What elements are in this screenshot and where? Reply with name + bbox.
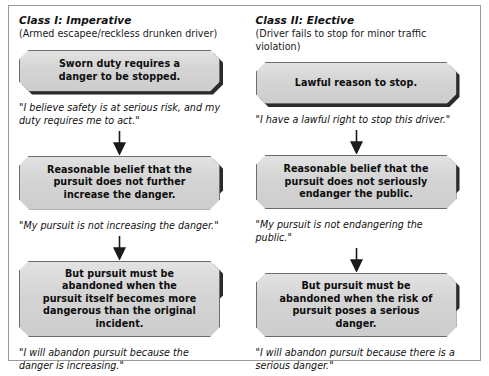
down-arrow-icon-ii-1	[256, 129, 457, 155]
step-box-ii-2: Reasonable belief that the pursuit does …	[256, 155, 457, 209]
step-box-text: Lawful reason to stop.	[295, 77, 417, 90]
step-quote-ii-3: "I will abandon pursuit because there is…	[256, 346, 460, 372]
step-quote-ii-2: "My pursuit is not endangering the publi…	[256, 218, 460, 244]
step-box-ii-3: But pursuit must be abandoned when the r…	[256, 273, 457, 337]
step-box-text: But pursuit must be abandoned when the p…	[42, 268, 197, 331]
down-arrow-icon-i-1	[19, 130, 220, 156]
step-quote-i-2: "My pursuit is not increasing the danger…	[19, 219, 223, 232]
step-box-text: Reasonable belief that the pursuit does …	[42, 164, 197, 202]
step-box-i-3: But pursuit must be abandoned when the p…	[19, 261, 220, 338]
class-title-ii: Class II: Elective	[256, 14, 476, 27]
step-box-text: But pursuit must be abandoned when the r…	[279, 280, 434, 330]
column-class-i: Class I: Imperative (Armed escapee/reckl…	[8, 5, 245, 361]
class-subtitle-ii: (Driver fails to stop for minor traffic …	[256, 28, 446, 53]
diagram-columns: Class I: Imperative (Armed escapee/reckl…	[8, 5, 481, 361]
diagram-page: Class I: Imperative (Armed escapee/reckl…	[0, 0, 489, 376]
step-box-text: Reasonable belief that the pursuit does …	[279, 163, 434, 201]
down-arrow-icon-ii-2	[256, 247, 457, 273]
class-title-i: Class I: Imperative	[19, 14, 239, 27]
step-box-i-1: Sworn duty requires a danger to be stopp…	[19, 50, 220, 92]
class-subtitle-i: (Armed escapee/reckless drunken driver)	[19, 28, 234, 41]
step-quote-ii-1: "I have a lawful right to stop this driv…	[256, 113, 460, 126]
step-box-ii-1: Lawful reason to stop.	[256, 62, 457, 104]
column-class-ii: Class II: Elective (Driver fails to stop…	[245, 5, 482, 361]
down-arrow-icon-i-2	[19, 235, 220, 261]
step-quote-i-3: "I will abandon pursuit because the dang…	[19, 346, 223, 372]
step-box-text: Sworn duty requires a danger to be stopp…	[42, 58, 197, 83]
step-box-i-2: Reasonable belief that the pursuit does …	[19, 156, 220, 210]
step-quote-i-1: "I believe safety is at serious risk, an…	[19, 101, 223, 127]
